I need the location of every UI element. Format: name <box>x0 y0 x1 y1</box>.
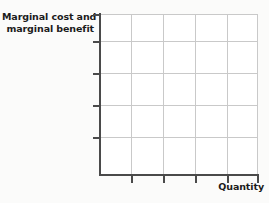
gridline-horizontal <box>100 73 258 74</box>
y-axis-label-line-2: marginal benefit <box>2 23 94 35</box>
grid-right-border <box>257 14 258 175</box>
gridline-vertical <box>195 14 196 175</box>
gridline-vertical <box>131 14 132 175</box>
x-axis-label: Quantity <box>0 181 264 192</box>
grid-top-border <box>100 14 258 15</box>
y-axis-line <box>99 13 101 176</box>
gridline-horizontal <box>100 137 258 138</box>
y-axis-tick <box>93 14 100 16</box>
plot-area <box>100 14 258 175</box>
gridline-vertical <box>163 14 164 175</box>
y-axis-tick <box>93 73 100 75</box>
y-axis-tick <box>93 105 100 107</box>
y-axis-tick <box>93 137 100 139</box>
x-axis-line <box>99 174 259 176</box>
y-axis-tick <box>93 41 100 43</box>
y-axis-label-line-1: Marginal cost and <box>2 11 94 23</box>
gridline-vertical <box>227 14 228 175</box>
gridline-horizontal <box>100 105 258 106</box>
gridline-horizontal <box>100 41 258 42</box>
y-axis-label: Marginal cost and marginal benefit <box>2 11 94 34</box>
chart-figure: Marginal cost and marginal benefit Quant… <box>0 0 269 203</box>
